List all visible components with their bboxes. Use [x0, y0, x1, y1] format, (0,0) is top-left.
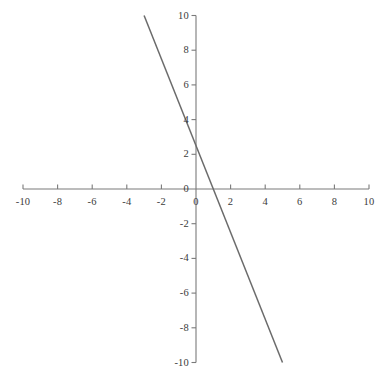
axes-group	[23, 16, 369, 363]
x-tick-label-8: 8	[332, 197, 337, 208]
x-tick-label-neg4: -4	[122, 197, 131, 208]
y-tick-label-4: 4	[184, 114, 189, 125]
x-tick-label-4: 4	[262, 197, 267, 208]
x-tick-label-6: 6	[297, 197, 302, 208]
y-tick-label-neg6: -6	[180, 288, 189, 299]
y-tick-label-10: 10	[178, 10, 189, 21]
x-tick-label-2: 2	[228, 197, 233, 208]
y-tick-label-8: 8	[184, 45, 189, 56]
x-tick-label-neg6: -6	[88, 197, 97, 208]
y-tick-label-neg8: -8	[180, 323, 189, 334]
plot-canvas	[0, 0, 385, 372]
y-tick-label-2: 2	[184, 149, 189, 160]
y-tick-label-6: 6	[184, 80, 189, 91]
y-tick-label-neg2: -2	[180, 218, 189, 229]
y-tick-label-0: 0	[184, 184, 189, 195]
x-tick-label-0: 0	[193, 197, 198, 208]
y-tick-label-neg10: -10	[174, 357, 189, 368]
x-tick-label-10: 10	[364, 197, 375, 208]
x-tick-label-neg10: -10	[16, 197, 31, 208]
x-tick-label-neg2: -2	[157, 197, 166, 208]
line-graph-figure: -10-8-6-4-20246810 -10-8-6-4-20246810	[0, 0, 385, 372]
x-tick-label-neg8: -8	[53, 197, 62, 208]
y-tick-label-neg4: -4	[180, 253, 189, 264]
